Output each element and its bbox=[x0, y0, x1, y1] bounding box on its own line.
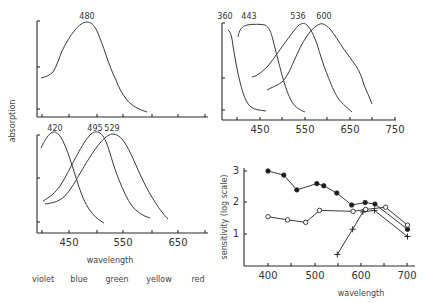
filled-circle-marker bbox=[322, 184, 326, 188]
filled-circle-marker bbox=[282, 173, 286, 177]
curve-495 bbox=[43, 132, 150, 218]
svg-text:550: 550 bbox=[295, 124, 314, 135]
series-line-open-circles bbox=[268, 207, 408, 225]
y-axis-label-sensitivity: sensitivity (log scale) bbox=[220, 175, 229, 260]
x-tick-labels: 450 550 650 750 bbox=[250, 124, 404, 135]
open-circle-marker bbox=[266, 214, 270, 218]
curve-420 bbox=[41, 132, 104, 223]
filled-circle-marker bbox=[363, 200, 367, 204]
svg-text:1: 1 bbox=[233, 228, 239, 239]
svg-text:500: 500 bbox=[305, 270, 324, 281]
svg-text:400: 400 bbox=[258, 270, 277, 281]
x-tick-labels: 450 550 650 bbox=[59, 237, 187, 248]
color-label-red: red bbox=[191, 275, 204, 284]
color-label-green: green bbox=[105, 275, 128, 284]
figure-canvas: 480 360 443 536 600 450 550 650 750 bbox=[0, 0, 426, 303]
peak-label-495: 495 bbox=[87, 124, 102, 133]
svg-text:700: 700 bbox=[397, 270, 416, 281]
cross-marker bbox=[334, 251, 340, 257]
color-label-blue: blue bbox=[70, 275, 87, 284]
open-circle-marker bbox=[303, 220, 307, 224]
open-circle-marker bbox=[383, 205, 387, 209]
peak-label-360: 360 bbox=[217, 12, 232, 21]
svg-text:450: 450 bbox=[250, 124, 269, 135]
peak-label-480: 480 bbox=[79, 12, 94, 21]
filled-circle-marker bbox=[350, 203, 354, 207]
svg-text:650: 650 bbox=[340, 124, 359, 135]
peak-label-536: 536 bbox=[290, 12, 305, 21]
filled-circle-marker bbox=[295, 188, 299, 192]
color-label-yellow: yellow bbox=[146, 275, 172, 284]
open-circle-marker bbox=[317, 208, 321, 212]
filled-circle-marker bbox=[266, 169, 270, 173]
filled-circle-marker bbox=[335, 191, 339, 195]
svg-text:550: 550 bbox=[113, 237, 132, 248]
panel-bottom-right: 3 2 1 400 500 600 700 wavelength sensiti… bbox=[220, 165, 417, 298]
curve-536 bbox=[252, 24, 352, 113]
color-label-violet: violet bbox=[32, 275, 54, 284]
x-tick-labels: 400 500 600 700 bbox=[258, 270, 416, 281]
peak-label-420: 420 bbox=[47, 124, 62, 133]
peak-label-443: 443 bbox=[241, 12, 256, 21]
y-axis-label-absorption: absorption bbox=[8, 100, 17, 143]
open-circle-marker bbox=[405, 223, 409, 227]
filled-circle-marker bbox=[315, 181, 319, 185]
svg-text:3: 3 bbox=[233, 165, 239, 176]
open-circle-marker bbox=[351, 209, 355, 213]
sensitivity-series bbox=[266, 169, 411, 258]
cross-marker bbox=[350, 226, 356, 232]
panel-top-right: 360 443 536 600 450 550 650 750 bbox=[217, 12, 404, 135]
peak-labels: 360 443 536 600 bbox=[217, 12, 331, 21]
color-band-labels: violet blue green yellow red bbox=[32, 275, 205, 284]
peak-label-529: 529 bbox=[104, 124, 119, 133]
curve-443 bbox=[238, 24, 305, 112]
x-axis-label: wavelength bbox=[338, 289, 385, 298]
svg-text:600: 600 bbox=[351, 270, 370, 281]
peak-label-600: 600 bbox=[316, 12, 331, 21]
svg-text:750: 750 bbox=[385, 124, 404, 135]
open-circle-marker bbox=[285, 218, 289, 222]
filled-circle-marker bbox=[373, 202, 377, 206]
curve-360 bbox=[228, 30, 266, 111]
panel-top-left: 480 bbox=[37, 12, 208, 117]
x-axis-label: wavelength bbox=[87, 256, 134, 265]
peak-labels: 420 495 529 bbox=[47, 124, 119, 133]
svg-text:650: 650 bbox=[168, 237, 187, 248]
curve-529 bbox=[45, 134, 168, 219]
curve-480 bbox=[41, 22, 147, 112]
curve-600 bbox=[267, 24, 372, 104]
svg-text:2: 2 bbox=[233, 196, 239, 207]
svg-text:450: 450 bbox=[59, 237, 78, 248]
panel-bottom-left: 420 495 529 450 550 650 wavelength viole… bbox=[32, 124, 208, 284]
y-tick-labels: 3 2 1 bbox=[233, 165, 239, 239]
